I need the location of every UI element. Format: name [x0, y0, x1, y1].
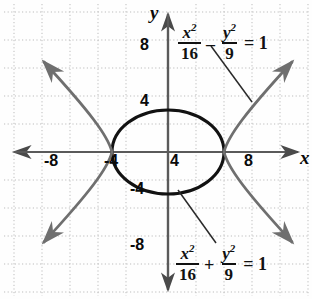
ellipse-second-fraction: y2 9 [219, 245, 238, 283]
ellipse-numerator-1: x2 [178, 245, 198, 263]
ellipse-first-fraction: x2 16 [176, 245, 199, 283]
x-tick-label-neg4: -4 [104, 152, 118, 170]
hyperbola-branch-upper-right [224, 62, 292, 152]
hyperbola-denominator-1: 16 [178, 42, 201, 62]
y-tick-label-pos4: 4 [140, 92, 149, 110]
ellipse-operator: + [204, 253, 214, 276]
conic-graph-figure: x2 16 – y2 9 = 1 x2 16 + y2 9 = 1 y x -8… [0, 0, 312, 299]
hyperbola-numerator-1: x2 [180, 24, 200, 42]
ellipse-numerator-2: y2 [219, 245, 238, 263]
x-tick-label-pos8: 8 [244, 152, 253, 170]
ellipse-exp-1: 2 [189, 242, 195, 254]
hyperbola-numerator-2: y2 [220, 24, 239, 42]
hyperbola-equals-one: = 1 [244, 33, 268, 54]
ellipse-exp-2: 2 [230, 242, 236, 254]
y-axis-label: y [150, 2, 158, 24]
leader-line-ellipse [178, 190, 216, 243]
x-axis-label: x [300, 147, 310, 169]
ellipse-equation-label: x2 16 + y2 9 = 1 [174, 245, 267, 283]
annotation-leader-lines [178, 46, 252, 243]
x-tick-label-pos4: 4 [170, 152, 179, 170]
ellipse-denominator-1: 16 [176, 263, 199, 283]
hyperbola-exp-1: 2 [191, 21, 197, 33]
hyperbola-branch-lower-right [224, 152, 292, 242]
hyperbola-operator: – [206, 32, 215, 55]
hyperbola-second-fraction: y2 9 [220, 24, 239, 62]
y-tick-label-neg4: -4 [130, 180, 144, 198]
y-tick-label-pos8: 8 [140, 36, 149, 54]
x-tick-label-neg8: -8 [44, 152, 58, 170]
ellipse-denominator-2: 9 [222, 263, 237, 283]
ellipse-equals-one: = 1 [243, 254, 267, 275]
hyperbola-branch-upper-left [44, 62, 112, 152]
hyperbola-denominator-2: 9 [222, 42, 237, 62]
hyperbola-equation-label: x2 16 – y2 9 = 1 [176, 24, 268, 62]
y-tick-label-neg8: -8 [130, 236, 144, 254]
hyperbola-first-fraction: x2 16 [178, 24, 201, 62]
hyperbola-exp-2: 2 [231, 21, 237, 33]
